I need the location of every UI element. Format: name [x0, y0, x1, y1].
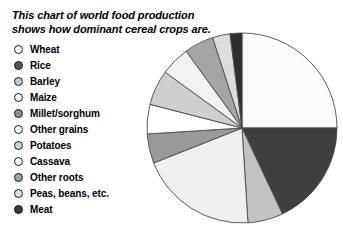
legend-swatch-icon — [14, 189, 23, 198]
legend-swatch-icon — [14, 61, 23, 70]
legend-item[interactable]: Potatoes — [14, 137, 149, 153]
legend-item-label: Millet/sorghum — [30, 108, 100, 119]
legend-item[interactable]: Meat — [14, 201, 149, 217]
legend-item[interactable]: Wheat — [14, 41, 149, 57]
legend-swatch-icon — [14, 157, 23, 166]
legend-item[interactable]: Peas, beans, etc. — [14, 185, 149, 201]
legend-item-label: Cassava — [30, 156, 70, 167]
legend-item[interactable]: Other grains — [14, 121, 149, 137]
legend-item-label: Maize — [30, 92, 57, 103]
legend-item-label: Wheat — [30, 44, 60, 55]
legend-item[interactable]: Maize — [14, 89, 149, 105]
legend-item-label: Rice — [30, 60, 51, 71]
legend-item[interactable]: Cassava — [14, 153, 149, 169]
legend-item[interactable]: Other roots — [14, 169, 149, 185]
legend-swatch-icon — [14, 125, 23, 134]
legend-swatch-icon — [14, 141, 23, 150]
legend-swatch-icon — [14, 45, 23, 54]
chart-legend: WheatRiceBarleyMaizeMillet/sorghumOther … — [14, 41, 149, 217]
pie-slice[interactable] — [242, 33, 337, 128]
legend-swatch-icon — [14, 93, 23, 102]
legend-item-label: Other roots — [30, 172, 83, 183]
pie-chart — [145, 30, 340, 226]
chart-page: This chart of world food production show… — [0, 0, 343, 231]
legend-item-label: Potatoes — [30, 140, 71, 151]
legend-item-label: Barley — [30, 76, 60, 87]
legend-item-label: Peas, beans, etc. — [30, 188, 109, 199]
legend-swatch-icon — [14, 77, 23, 86]
legend-swatch-icon — [14, 109, 23, 118]
pie-chart-svg — [145, 30, 340, 226]
legend-item-label: Meat — [30, 204, 52, 215]
legend-item[interactable]: Barley — [14, 73, 149, 89]
legend-swatch-icon — [14, 205, 23, 214]
legend-item-label: Other grains — [30, 124, 88, 135]
legend-item[interactable]: Millet/sorghum — [14, 105, 149, 121]
pie-slice-group — [147, 33, 337, 223]
legend-item[interactable]: Rice — [14, 57, 149, 73]
legend-swatch-icon — [14, 173, 23, 182]
